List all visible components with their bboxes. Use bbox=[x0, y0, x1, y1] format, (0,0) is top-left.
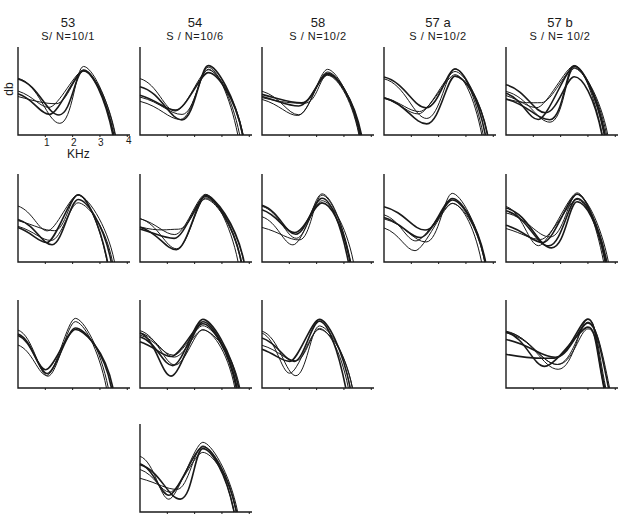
spectrum-panel bbox=[506, 174, 628, 266]
spectrum-trace bbox=[140, 452, 236, 512]
spectrum-panel bbox=[506, 47, 628, 139]
spectrum-trace bbox=[262, 201, 353, 262]
spectrum-panel bbox=[140, 424, 262, 516]
x-axis-label: KHz bbox=[67, 147, 90, 161]
spectrum-trace bbox=[384, 71, 488, 135]
spectrum-trace bbox=[506, 65, 602, 135]
spectrum-trace bbox=[18, 199, 111, 262]
spectrum-trace bbox=[506, 77, 602, 135]
spectrum-trace bbox=[140, 447, 237, 512]
spectrum-trace bbox=[140, 198, 244, 262]
spectrum-panel bbox=[140, 47, 262, 139]
spectrum-trace bbox=[262, 198, 348, 262]
spectrum-trace bbox=[384, 69, 485, 135]
spectrum-panel bbox=[506, 300, 628, 392]
signal-noise-ratio: S/ N=10/1 bbox=[8, 30, 128, 43]
spectrum-panel bbox=[18, 174, 140, 266]
axis bbox=[140, 424, 252, 512]
spectrum-trace bbox=[18, 71, 113, 135]
spectrum-panel bbox=[262, 47, 384, 139]
spectrum-trace bbox=[384, 200, 485, 262]
column-id: 54 bbox=[135, 15, 255, 30]
spectrum-panel bbox=[18, 300, 140, 392]
spectrum-trace bbox=[140, 322, 237, 388]
spectrum-trace bbox=[384, 193, 485, 262]
spectrum-trace bbox=[262, 72, 361, 135]
spectrum-panel bbox=[140, 174, 262, 266]
axis bbox=[262, 300, 374, 388]
axis bbox=[18, 300, 130, 388]
spectrum-trace bbox=[506, 66, 604, 135]
spectrum-trace bbox=[140, 449, 234, 512]
column-title-54: 54 S / N=10/6 bbox=[135, 15, 255, 43]
spectrum-panel bbox=[384, 47, 506, 139]
column-title-53: 53 S/ N=10/1 bbox=[8, 15, 128, 43]
spectrum-trace bbox=[18, 322, 106, 388]
spectrum-trace bbox=[262, 194, 351, 262]
spectrum-trace bbox=[506, 194, 606, 262]
axis bbox=[18, 174, 130, 262]
column-id: 57 a bbox=[378, 15, 498, 30]
spectrum-trace bbox=[140, 326, 239, 388]
column-id: 58 bbox=[258, 15, 378, 30]
spectrum-panel bbox=[262, 174, 384, 266]
spectrum-trace bbox=[140, 324, 236, 388]
spectrum-trace bbox=[140, 66, 243, 135]
spectrum-trace bbox=[384, 199, 486, 262]
spectrum-panel bbox=[18, 47, 140, 139]
spectrum-panel bbox=[262, 300, 384, 392]
spectrum-trace bbox=[140, 199, 241, 262]
spectrum-trace bbox=[262, 195, 350, 262]
y-axis-label: db bbox=[2, 82, 16, 95]
signal-noise-ratio: S / N=10/6 bbox=[135, 30, 255, 43]
spectrum-trace bbox=[384, 203, 485, 262]
column-title-57a: 57 a S / N=10/2 bbox=[378, 15, 498, 43]
signal-noise-ratio: S / N=10/2 bbox=[258, 30, 378, 43]
spectrum-trace bbox=[506, 194, 608, 262]
spectrum-trace bbox=[262, 73, 360, 135]
spectrum-trace bbox=[506, 198, 607, 262]
signal-noise-ratio: S / N=10/2 bbox=[378, 30, 498, 43]
spectrum-trace bbox=[262, 69, 359, 135]
signal-noise-ratio: S / N= 10/2 bbox=[500, 30, 620, 43]
column-id: 57 b bbox=[500, 15, 620, 30]
spectrum-trace bbox=[18, 318, 108, 388]
spectrum-trace bbox=[262, 74, 361, 135]
spectrum-panel bbox=[384, 174, 506, 266]
spectrum-trace bbox=[506, 193, 604, 262]
spectrum-panel bbox=[140, 300, 262, 392]
column-title-57b: 57 b S / N= 10/2 bbox=[500, 15, 620, 43]
column-id: 53 bbox=[8, 15, 128, 30]
spectrum-trace bbox=[506, 66, 605, 135]
spectrum-trace bbox=[262, 328, 348, 388]
column-title-58: 58 S / N=10/2 bbox=[258, 15, 378, 43]
